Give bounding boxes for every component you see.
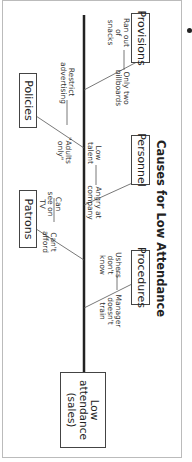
effect-box: Low attendance (sales) — [60, 372, 106, 448]
cause-label: Can see on TV — [38, 190, 62, 218]
cause-label: Restrict advertising — [59, 62, 75, 102]
cause-label: "Adults only" — [56, 128, 72, 173]
category-procedures: Procedures — [131, 250, 150, 305]
cause-label: Angry at company — [86, 185, 102, 220]
diagram-title: Causes for Low Attendance — [154, 140, 168, 317]
cause-label: Only two billboards — [114, 68, 130, 108]
effect-label: Low attendance (sales) — [66, 373, 101, 447]
cause-label: Manager doesn't train — [98, 292, 122, 330]
category-provisions: Provisions — [131, 13, 150, 63]
category-label: Personnel — [134, 133, 146, 187]
fishbone-diagram: Provisions Policies Personnel Patrons Pr… — [0, 0, 192, 462]
category-label: Patrons — [22, 199, 34, 240]
cause-label: Low talent — [86, 140, 102, 166]
category-label: Policies — [22, 80, 34, 121]
category-patrons: Patrons — [19, 190, 37, 248]
category-label: Procedures — [134, 247, 146, 308]
cause-label: Can't afford — [41, 222, 57, 262]
cause-label: Ran out of snacks — [106, 15, 130, 50]
category-policies: Policies — [19, 73, 37, 128]
category-personnel: Personnel — [131, 135, 150, 185]
category-label: Provisions — [134, 10, 146, 65]
cause-label: Ushers don't know — [98, 248, 122, 282]
